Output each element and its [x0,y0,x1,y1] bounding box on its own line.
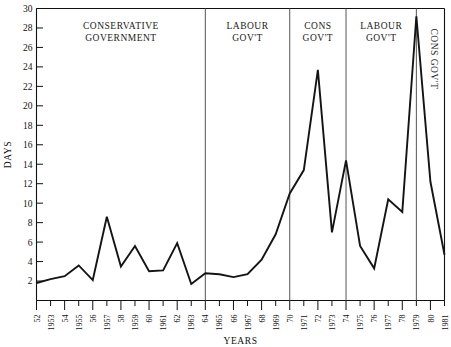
y-tick-label: 14 [23,160,33,170]
x-tick-label: 1969 [272,315,281,331]
data-series-line [37,16,445,284]
x-tick-label: 1957 [103,315,112,331]
x-tick-label: 58 [117,315,126,323]
x-tick-label: 60 [145,315,154,323]
period-label: GOVERNMENT [85,33,157,43]
x-tick-label: 1963 [187,315,196,331]
period-label: GOV'T [366,33,397,43]
x-tick-label: 68 [258,315,267,323]
y-axis-title: DAYS [3,141,13,168]
x-tick-label: 72 [314,315,323,323]
y-tick-label: 22 [23,82,33,92]
period-label: LABOUR [360,21,402,31]
x-axis-title: YEARS [223,336,257,346]
y-tick-label: 6 [28,238,33,248]
line-chart: 24681012141618202224262830 5219535419555… [0,0,451,347]
x-tick-label: 1961 [159,315,168,331]
x-tick-label: 76 [370,315,379,323]
y-axis-ticks [37,9,44,282]
x-tick-label: 78 [398,315,407,323]
y-tick-label: 26 [23,43,33,53]
y-tick-label: 28 [23,23,33,33]
x-tick-label: 1979 [412,315,421,331]
y-tick-label: 10 [23,199,33,209]
x-tick-label: 54 [61,315,70,323]
y-tick-label: 12 [23,179,33,189]
y-tick-label: 2 [28,276,33,286]
y-tick-label: 20 [23,101,33,111]
x-tick-label: 1975 [356,315,365,331]
period-label: CONSERVATIVE [83,21,159,31]
x-axis-ticks [37,301,445,311]
x-tick-label: 80 [427,315,436,323]
x-tick-label: 1971 [300,315,309,331]
x-tick-label: 66 [230,315,239,323]
y-tick-label: 18 [23,121,33,131]
y-tick-label: 16 [23,140,33,150]
government-period-dividers [205,9,416,301]
period-label-vertical: CONS GOV'T [429,29,439,90]
x-tick-label: 1965 [215,315,224,331]
x-tick-label: 64 [201,315,210,323]
period-label: GOV'T [232,33,263,43]
series-line [37,16,445,284]
x-tick-label: 1953 [47,315,56,331]
chart-container: 24681012141618202224262830 5219535419555… [0,0,451,347]
x-tick-label: 1959 [131,315,140,331]
period-label: LABOUR [227,21,269,31]
x-tick-label: 56 [89,315,98,323]
period-label: CONS [304,21,331,31]
y-tick-label: 30 [23,4,33,14]
period-label: GOV'T [303,33,334,43]
x-tick-label: 1973 [328,315,337,331]
x-tick-label: 1981 [441,315,450,331]
y-axis-tick-labels: 24681012141618202224262830 [23,4,33,287]
y-tick-label: 24 [23,62,33,72]
x-tick-label: 70 [286,315,295,323]
x-tick-label: 1967 [244,315,253,331]
x-tick-label: 62 [173,315,182,323]
x-tick-label: 74 [342,315,351,323]
y-tick-label: 4 [28,257,33,267]
x-tick-label: 1955 [75,315,84,331]
x-tick-label: 1977 [384,315,393,331]
y-tick-label: 8 [28,218,33,228]
x-tick-label: 52 [33,315,42,323]
government-period-labels: CONSERVATIVEGOVERNMENTLABOURGOV'TCONSGOV… [83,21,439,90]
x-axis-tick-labels: 5219535419555619575819596019616219636419… [33,315,450,331]
